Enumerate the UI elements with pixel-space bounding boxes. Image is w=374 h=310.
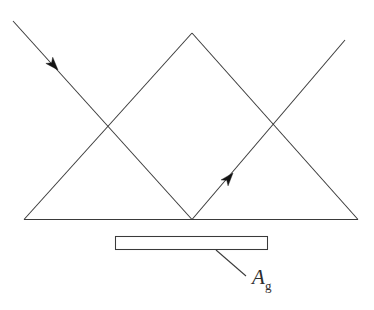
incident-ray-line	[13, 21, 192, 220]
silver-plate-rect	[116, 237, 268, 250]
plate-label-symbol: A	[250, 265, 265, 289]
reflected-ray-line	[192, 40, 345, 220]
ray-diagram-figure: A g	[0, 0, 374, 310]
plate-label-subscript: g	[265, 278, 272, 293]
ray-diagram-canvas: A g	[0, 0, 374, 310]
triangle-right-edge	[192, 33, 358, 220]
plate-label-leader-line	[216, 250, 246, 276]
